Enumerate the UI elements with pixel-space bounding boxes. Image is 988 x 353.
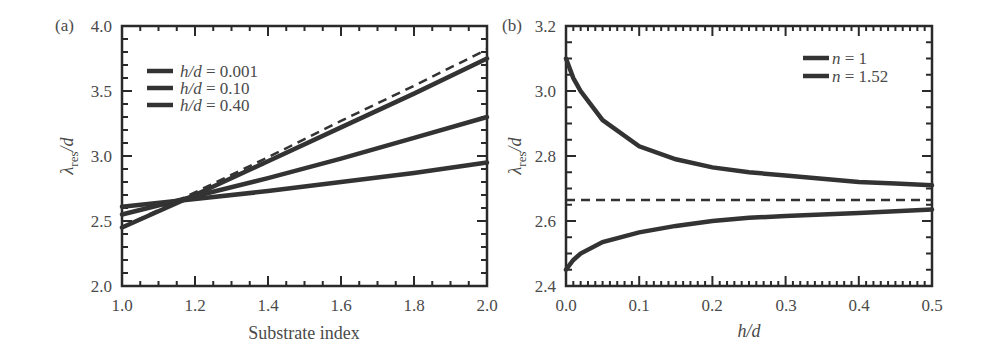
panel-b-xtick: 0.0 <box>555 296 576 315</box>
panel-b-xtick: 0.3 <box>775 296 796 315</box>
panel-a-xtick: 1.6 <box>330 296 351 315</box>
panel-b-xtick: 0.5 <box>921 296 942 315</box>
panel-a-xtick: 1.4 <box>257 296 279 315</box>
panel-a-xtick: 2.0 <box>476 296 497 315</box>
panel-b-xtick: 0.2 <box>701 296 722 315</box>
legend-entry: n = 1 <box>832 49 867 68</box>
panel-b-label: (b) <box>502 16 522 35</box>
panel-b-ytick: 3.0 <box>535 82 556 101</box>
panel-a-ytick: 3.5 <box>91 82 112 101</box>
panel-b-ytick: 2.8 <box>535 147 556 166</box>
panel-a-ytick: 2.5 <box>91 212 112 231</box>
panel-a-ylabel: λres/d <box>57 137 81 176</box>
panel-b-ylabel: λres/d <box>505 137 529 176</box>
series-line <box>122 49 487 227</box>
ylabel-tail: /d <box>505 137 525 153</box>
legend-entry: n = 1.52 <box>832 67 888 86</box>
panel-a-frame <box>122 26 487 286</box>
ylabel-sub: res <box>66 152 81 167</box>
panel-a-legend: h/d = 0.001 h/d = 0.10 h/d = 0.40 <box>147 62 258 115</box>
panel-a-xtick: 1.0 <box>111 296 132 315</box>
panel-a-ytick: 4.0 <box>91 17 112 36</box>
figure: (a) 4.0 3.5 3.0 2.5 2.0 1.0 1.2 1.4 1.6 … <box>0 0 988 353</box>
panel-a-ticks <box>122 26 487 286</box>
series-line <box>566 210 932 270</box>
panel-b-xtick: 0.4 <box>848 296 870 315</box>
panel-b-ticks <box>566 26 932 286</box>
ylabel-sub: res <box>514 152 529 167</box>
panel-b-legend: n = 1 n = 1.52 <box>803 49 888 86</box>
ylabel-tail: /d <box>57 137 77 153</box>
panel-a-xtick: 1.2 <box>184 296 205 315</box>
panel-b-ytick: 2.6 <box>535 212 556 231</box>
panel-a-xlabel: Substrate index <box>248 323 359 343</box>
ylabel-lambda: λ <box>57 166 77 175</box>
svg-text:λres/d: λres/d <box>505 137 529 176</box>
panel-b-xtick: 0.1 <box>628 296 649 315</box>
panel-a-series <box>122 49 487 227</box>
panel-a-xtick: 1.8 <box>403 296 424 315</box>
panel-a-ytick: 2.0 <box>91 277 112 296</box>
panel-b-ytick: 3.2 <box>535 17 556 36</box>
panel-b-series <box>566 59 932 270</box>
panel-b-xlabel: h/d <box>737 321 761 341</box>
panel-a-label: (a) <box>55 16 74 35</box>
panel-b-ytick: 2.4 <box>535 277 557 296</box>
ylabel-lambda: λ <box>505 166 525 175</box>
panel-b-frame <box>566 26 932 286</box>
legend-entry: h/d = 0.40 <box>180 96 250 115</box>
panel-b: (b) 3.2 3.0 2.8 2.6 2.4 0.0 0.1 0.2 0.3 … <box>502 16 943 341</box>
svg-text:λres/d: λres/d <box>57 137 81 176</box>
panel-a: (a) 4.0 3.5 3.0 2.5 2.0 1.0 1.2 1.4 1.6 … <box>55 16 498 343</box>
panel-a-ytick: 3.0 <box>91 147 112 166</box>
